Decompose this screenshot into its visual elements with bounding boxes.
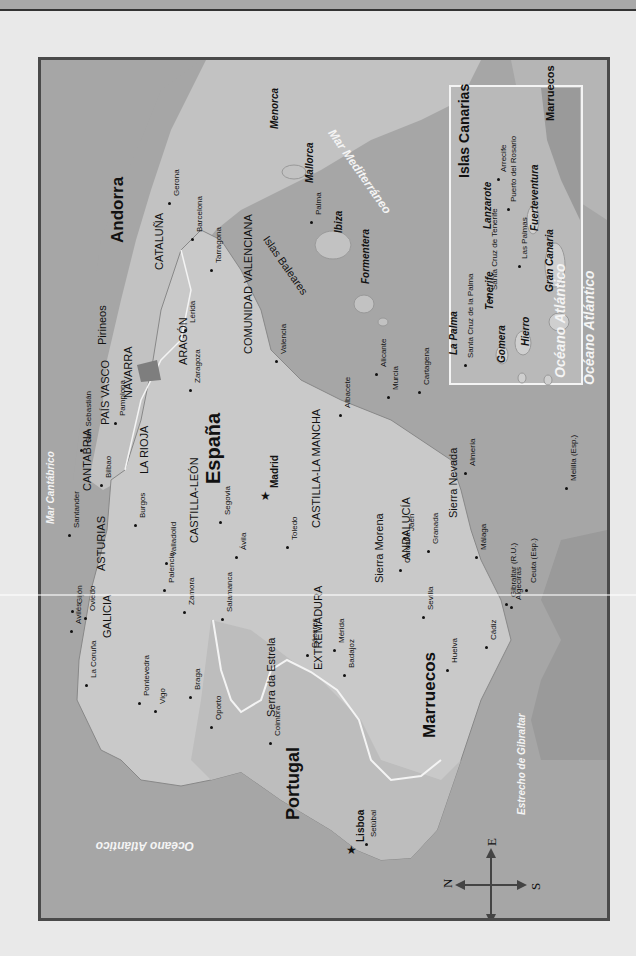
inset-city-label: Santa Cruz de Tenerife: [491, 208, 499, 290]
sea-label: Océano Atlántico: [96, 840, 194, 852]
city-label: Pontevedra: [143, 655, 151, 696]
city-label: Almería: [469, 438, 477, 466]
region-label: ASTURIAS: [96, 516, 107, 571]
city-marker-icon: [418, 391, 421, 394]
region-label: Sierra Nevada: [448, 448, 459, 518]
city-label: Alicante: [380, 339, 388, 367]
city-marker-icon: [507, 208, 510, 211]
compass-s-label: S: [529, 883, 542, 890]
city-label: La Coruña: [90, 641, 98, 678]
city-marker-icon: [168, 202, 171, 205]
city-label: Gerona: [173, 169, 181, 196]
city-marker-icon: [365, 843, 368, 846]
city-marker-icon: [310, 221, 313, 224]
city-marker-icon: [525, 589, 528, 592]
city-marker-icon: [80, 449, 83, 452]
compass-n-label: N: [441, 879, 454, 888]
city-marker-icon: [154, 710, 157, 713]
city-marker-icon: [446, 669, 449, 672]
city-label: Cádiz: [490, 620, 498, 640]
city-marker-icon: [191, 238, 194, 241]
inset-title: Islas Canarias: [457, 84, 471, 178]
city-label: Segovia: [224, 486, 232, 515]
city-marker-icon: [427, 550, 430, 553]
city-marker-icon: [221, 618, 224, 621]
city-label: Albacete: [344, 377, 352, 408]
city-marker-icon: [114, 422, 117, 425]
compass-rose: N S E O: [437, 830, 537, 921]
city-marker-icon: [497, 178, 500, 181]
capital-star-icon: ★: [346, 844, 357, 856]
city-marker-icon: [488, 296, 491, 299]
city-marker-icon: [68, 534, 71, 537]
inset-city-label: Arrecife: [500, 144, 508, 172]
city-label: Braga: [194, 669, 202, 690]
city-label: Palencia: [168, 552, 176, 583]
map-frame: EspañaPortugalAndorraMarruecosGALICIAAST…: [38, 57, 610, 921]
city-marker-icon: [189, 696, 192, 699]
city-marker-icon: [464, 364, 467, 367]
city-marker-icon: [163, 589, 166, 592]
city-label: Valencia: [280, 324, 288, 354]
country-label: España: [203, 413, 223, 484]
city-label: Setúbal: [370, 810, 378, 837]
city-label: Cartagena: [423, 348, 431, 385]
region-label: Pirineos: [97, 305, 108, 345]
city-label: Cáceres: [311, 618, 319, 648]
city-marker-icon: [85, 684, 88, 687]
island-label: Formentera: [361, 229, 371, 284]
city-label: Burgos: [139, 493, 147, 518]
city-label: Lérida: [189, 301, 197, 323]
city-marker-icon: [219, 521, 222, 524]
city-marker-icon: [339, 414, 342, 417]
region-label: ARAGÓN: [178, 317, 189, 365]
city-label: Vigo: [159, 688, 167, 704]
city-label: Avilés: [75, 603, 83, 624]
region-label: Sierra Morena: [374, 513, 385, 583]
city-marker-icon: [183, 611, 186, 614]
city-label: Zamora: [188, 577, 196, 605]
region-label: COMUNIDAD VALENCIANA: [243, 214, 254, 354]
inset-city-label: Santa Cruz de la Palma: [467, 274, 475, 359]
region-label: CASTILLA-LA MANCHA: [311, 409, 322, 528]
city-marker-icon: [184, 329, 187, 332]
region-label: LA RIOJA: [139, 426, 150, 474]
inset-city-label: Puerto del Rosario: [510, 136, 518, 202]
inset-island-label: Hierro: [521, 317, 531, 346]
country-label: Andorra: [109, 177, 126, 243]
city-marker-icon: [210, 269, 213, 272]
city-label: Madrid: [270, 455, 280, 488]
city-label: Tarragona: [215, 227, 223, 263]
sea-label: Océano Atlántico: [553, 263, 567, 378]
region-label: GALICIA: [102, 595, 113, 638]
city-label: Oporto: [215, 696, 223, 720]
city-label: Ceuta (Esp.): [530, 538, 538, 583]
city-marker-icon: [485, 646, 488, 649]
sea-label: Estrecho de Gibraltar: [517, 713, 527, 815]
region-label: CATALUÑA: [154, 213, 165, 270]
city-marker-icon: [100, 484, 103, 487]
city-marker-icon: [333, 649, 336, 652]
city-marker-icon: [306, 654, 309, 657]
city-label: Toledo: [291, 516, 299, 540]
city-label: Pamplona: [119, 380, 127, 416]
city-marker-icon: [343, 674, 346, 677]
inset-island-label: Gomera: [497, 325, 507, 363]
city-marker-icon: [565, 487, 568, 490]
capital-star-icon: ★: [260, 490, 271, 502]
city-marker-icon: [210, 726, 213, 729]
city-label: Badajoz: [348, 639, 356, 668]
city-marker-icon: [387, 396, 390, 399]
city-label: Barcelona: [196, 196, 204, 232]
city-marker-icon: [505, 603, 508, 606]
inset-island-label: Fuerteventura: [530, 164, 540, 231]
island-label: Ibiza: [334, 211, 344, 233]
top-bar: [0, 0, 636, 11]
city-marker-icon: [286, 546, 289, 549]
city-marker-icon: [70, 630, 73, 633]
city-label: Gibraltar (R.U.): [510, 543, 518, 597]
city-label: Melilla (Esp.): [570, 435, 578, 481]
region-label: PAÍS VASCO: [100, 360, 111, 425]
city-label: Lisboa: [356, 810, 366, 842]
city-label: Bilbao: [105, 456, 113, 478]
